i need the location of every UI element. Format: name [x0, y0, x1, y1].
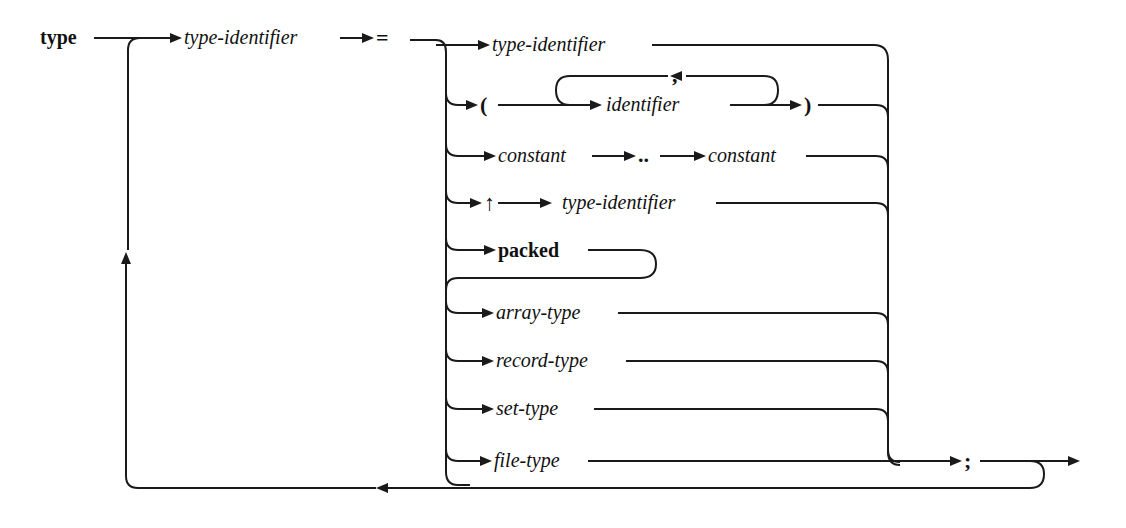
- connector: [618, 313, 888, 325]
- arrow-icon: [121, 252, 131, 264]
- alt-pointer-type-identifier: type-identifier: [562, 191, 676, 214]
- alt-record-type: record-type: [496, 349, 588, 372]
- alt-array-type: array-type: [496, 301, 581, 324]
- open-paren: (: [480, 92, 487, 117]
- keyword-type: type: [40, 26, 77, 49]
- branch-rail: [410, 40, 470, 485]
- alt-constant-to: constant: [708, 144, 776, 166]
- arrow-icon: [376, 483, 388, 493]
- arrow-icon: [470, 198, 482, 208]
- close-paren: ): [804, 92, 811, 117]
- connector: [806, 156, 888, 168]
- connector: [446, 93, 466, 105]
- semicolon-terminator: ;: [964, 448, 971, 473]
- connector: [716, 203, 888, 215]
- alt-file-type: file-type: [494, 449, 560, 472]
- arrow-icon: [480, 456, 492, 466]
- alt-constant-from: constant: [498, 144, 566, 166]
- arrow-icon: [484, 245, 496, 255]
- arrow-icon: [482, 308, 494, 318]
- type-declaration-syntax-diagram: type type-identifier = type-identifier (…: [0, 0, 1126, 528]
- arrow-icon: [482, 356, 494, 366]
- alt-type-identifier: type-identifier: [492, 33, 606, 56]
- arrow-icon: [590, 100, 602, 110]
- connector: [446, 238, 484, 250]
- connector: [626, 361, 888, 373]
- equals-sign: =: [376, 25, 389, 50]
- connector: [446, 397, 482, 409]
- arrow-icon: [694, 151, 706, 161]
- comma-separator: ,: [672, 62, 678, 87]
- loop-back-left: [126, 262, 376, 488]
- merge-rail: [652, 45, 900, 465]
- connector: [446, 144, 484, 156]
- arrow-icon: [170, 33, 182, 43]
- alt-set-type: set-type: [496, 397, 558, 420]
- pointer-arrow: ↑: [484, 190, 495, 215]
- connector: [446, 301, 482, 313]
- arrow-icon: [1068, 456, 1080, 466]
- arrow-icon: [466, 100, 478, 110]
- connector: [594, 409, 888, 421]
- keyword-packed: packed: [498, 239, 559, 262]
- arrow-icon: [790, 100, 802, 110]
- alt-identifier: identifier: [606, 93, 680, 116]
- repeat-loop: [686, 76, 778, 105]
- connector: [818, 105, 888, 117]
- arrow-icon: [540, 198, 552, 208]
- arrow-icon: [484, 151, 496, 161]
- arrow-icon: [624, 151, 636, 161]
- connector: [446, 349, 482, 361]
- loop-rail-top: [128, 38, 140, 250]
- arrow-icon: [482, 404, 494, 414]
- arrow-icon: [950, 456, 962, 466]
- arrow-icon: [478, 40, 490, 50]
- head-type-identifier: type-identifier: [184, 26, 298, 49]
- connector: [446, 191, 470, 203]
- range-dots: ..: [638, 142, 649, 167]
- connector: [446, 449, 480, 461]
- loop-back-bottom: [388, 461, 1044, 488]
- arrow-icon: [362, 33, 374, 43]
